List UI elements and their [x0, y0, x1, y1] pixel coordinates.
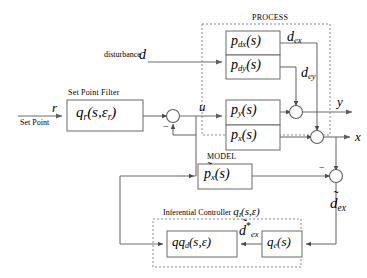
d-ex-base: d: [287, 29, 294, 44]
p-y-sub: y: [238, 108, 242, 118]
p-y-symbol: p: [231, 102, 238, 117]
signal-d-tilde-star-ex-label: ̃d*ex: [239, 221, 259, 238]
p-y-args: (s): [242, 102, 257, 117]
inferential-controller-title: Inferential Controller qI(s,ε): [163, 206, 260, 217]
sum-u-minus-sign: −: [163, 122, 169, 132]
p-dy-sub: dy: [238, 63, 246, 73]
qqd-expression: qqd(s,ε): [172, 235, 211, 248]
p-dy-expression: pdy(s): [231, 58, 261, 72]
qqd-args: (s,ε): [189, 234, 211, 249]
qe-expression: qe(s): [267, 235, 291, 248]
d-tilde-star-ex-group: ̃d: [239, 224, 246, 238]
model-px-tilde: ̃: [204, 160, 211, 173]
d-tilde-star-ex-tilde: ̃: [239, 217, 246, 230]
signal-y-label: y: [337, 95, 343, 108]
signal-d-ex-label: dex: [287, 30, 302, 44]
set-point-label: Set Point: [20, 119, 49, 127]
qr-symbol: q: [76, 104, 84, 120]
qr-args-sub: r: [108, 112, 112, 122]
model-group-title: MODEL: [207, 153, 236, 161]
qe-args: (s): [277, 234, 291, 249]
model-px-tilde-group: ̃p: [204, 167, 211, 181]
sum-junction-x[interactable]: [311, 131, 324, 144]
d-ey-sub: ey: [308, 71, 316, 81]
inferential-controller-title-text: Inferential Controller: [163, 208, 231, 217]
signal-r-label: r: [52, 101, 57, 114]
setpoint-filter-title: Set Point Filter: [68, 89, 120, 97]
disturbance-word-label: disturbance: [104, 51, 141, 59]
d-tilde-star-ex-sub: ex: [251, 229, 259, 239]
sum-junction-model-error[interactable]: [330, 170, 343, 183]
d-ex-sub: ex: [294, 35, 302, 45]
p-dx-args: (s): [246, 33, 261, 48]
p-x-args: (s): [242, 127, 257, 142]
signal-d-ey-label: dey: [301, 66, 316, 80]
signal-d-label: d: [139, 48, 146, 62]
signal-x-label: x: [355, 130, 361, 143]
qqd-symbol: qq: [172, 234, 185, 249]
d-ey-base: d: [301, 65, 308, 80]
p-dx-expression: pdx(s): [231, 34, 261, 48]
process-group-title: PROCESS: [252, 14, 288, 22]
p-y-expression: py(s): [231, 103, 257, 117]
model-px-expression: ̃px(s): [204, 167, 230, 181]
p-dy-symbol: p: [231, 57, 238, 72]
p-dx-sub: dx: [238, 39, 246, 49]
qqd-sub: d: [185, 241, 189, 250]
setpoint-filter-expression: qr(s,εr): [76, 105, 116, 120]
qr-args: (s,ε: [87, 104, 108, 120]
sum-model-minus-sign: −: [319, 163, 325, 173]
model-px-sub: x: [211, 172, 215, 182]
qe-sub: e: [274, 241, 278, 250]
inferential-controller-args: (s,ε): [241, 205, 260, 217]
p-x-expression: px(s): [231, 128, 257, 142]
d-tilde-ex-sub: ex: [338, 203, 346, 213]
p-dy-args: (s): [246, 57, 261, 72]
d-tilde-ex-tilde: ̃: [330, 189, 338, 203]
qr-sub: r: [84, 112, 88, 122]
p-dx-symbol: p: [231, 33, 238, 48]
qr-args-close: ): [111, 104, 116, 120]
signal-u-label: u: [199, 100, 206, 113]
sum-junction-y[interactable]: [290, 106, 303, 119]
p-x-symbol: p: [231, 127, 238, 142]
inferential-controller-symbol: q: [233, 205, 239, 217]
d-tilde-ex-group: ̃d: [330, 196, 338, 211]
qe-symbol: q: [267, 234, 274, 249]
model-px-args: (s): [215, 166, 230, 181]
p-x-sub: x: [238, 133, 242, 143]
signal-d-tilde-ex-label: ̃dex: [330, 196, 346, 211]
